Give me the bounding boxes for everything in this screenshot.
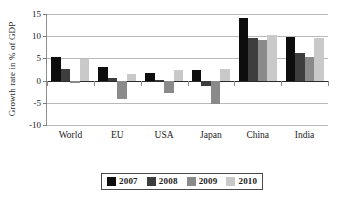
x-axis-label-china: China	[246, 130, 269, 140]
bar-group-india: India	[281, 14, 328, 125]
legend-label-2009: 2009	[199, 176, 218, 186]
legend-swatch-2010	[226, 177, 235, 186]
bar-group-usa: USA	[141, 14, 188, 125]
bar-india-2007	[286, 37, 296, 81]
legend-label-2010: 2010	[238, 176, 257, 186]
bar-chart: Growth rate in % of GDP 151050-5-10World…	[0, 0, 337, 212]
y-tick-label: -10	[29, 120, 41, 130]
y-tick-label: 5	[37, 53, 42, 63]
legend-label-2008: 2008	[159, 176, 178, 186]
bar-japan-2010	[220, 69, 230, 81]
legend-entry-2007: 2007	[107, 176, 138, 186]
bar-japan-2009	[211, 81, 221, 105]
x-axis-label-usa: USA	[155, 130, 174, 140]
y-tick-label: 0	[37, 76, 42, 86]
group-separator	[94, 81, 95, 86]
bar-group-china: China	[234, 14, 281, 125]
bar-world-2008	[61, 69, 71, 81]
gridline--10	[47, 125, 328, 126]
x-axis-label-japan: Japan	[200, 130, 222, 140]
legend-swatch-2007	[107, 177, 116, 186]
bar-group-japan: Japan	[188, 14, 235, 125]
bar-group-world: World	[47, 14, 94, 125]
plot-area: 151050-5-10WorldEUUSAJapanChinaIndia	[47, 14, 328, 125]
bar-china-2010	[267, 35, 277, 81]
bar-world-2009	[70, 81, 80, 84]
x-axis-label-world: World	[59, 130, 83, 140]
bar-usa-2008	[155, 80, 165, 81]
bar-india-2009	[305, 57, 315, 81]
legend-entry-2009: 2009	[187, 176, 218, 186]
bar-usa-2007	[145, 73, 155, 81]
bar-china-2009	[258, 40, 268, 80]
group-separator	[188, 81, 189, 86]
group-separator	[47, 81, 48, 86]
chart-legend: 2007200820092010	[101, 173, 263, 190]
bar-china-2007	[239, 18, 249, 81]
bar-india-2008	[295, 53, 305, 81]
legend-entry-2010: 2010	[226, 176, 257, 186]
bar-group-eu: EU	[94, 14, 141, 125]
y-tick-label: 10	[32, 31, 41, 41]
legend-swatch-2008	[147, 177, 156, 186]
bar-usa-2010	[174, 70, 184, 81]
bar-india-2010	[314, 38, 324, 80]
group-separator	[234, 81, 235, 86]
bar-eu-2009	[117, 81, 127, 100]
y-tick-label: 15	[32, 9, 41, 19]
bar-japan-2007	[192, 70, 202, 80]
group-separator	[141, 81, 142, 86]
group-separator	[328, 81, 329, 86]
bar-china-2008	[248, 38, 258, 81]
y-axis-title: Growth rate in % of GDP	[7, 10, 17, 128]
group-separator	[281, 81, 282, 86]
bar-world-2007	[51, 57, 61, 81]
y-tick-label: -5	[34, 98, 42, 108]
bar-eu-2010	[127, 74, 137, 81]
bar-usa-2009	[164, 81, 174, 93]
legend-entry-2008: 2008	[147, 176, 178, 186]
plot-inner: 151050-5-10WorldEUUSAJapanChinaIndia	[47, 14, 328, 125]
bar-world-2010	[80, 59, 90, 80]
x-axis-label-india: India	[295, 130, 315, 140]
legend-label-2007: 2007	[119, 176, 138, 186]
legend-swatch-2009	[187, 177, 196, 186]
y-tick-mark	[43, 125, 47, 126]
x-axis-label-eu: EU	[111, 130, 124, 140]
bar-japan-2008	[201, 81, 211, 86]
bar-eu-2007	[98, 67, 108, 81]
bar-eu-2008	[108, 78, 118, 80]
